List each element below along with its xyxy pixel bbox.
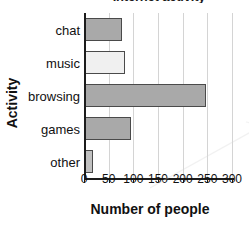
bar-browsing — [85, 84, 206, 107]
chart-title: Internet activity — [84, 0, 234, 3]
x-axis-tick-label: 300 — [222, 172, 242, 186]
x-axis-tick-label: 0 — [81, 172, 88, 186]
bar-music — [85, 51, 125, 74]
x-axis-tick-label: 250 — [197, 172, 217, 186]
y-axis-tick-label-music: music — [0, 55, 84, 70]
y-axis-tick-label-other: other — [0, 154, 84, 169]
y-axis-tick-label-browsing: browsing — [0, 88, 84, 103]
gridline — [232, 13, 233, 178]
y-axis-spine — [84, 13, 86, 178]
x-axis-tick-label: 150 — [148, 172, 168, 186]
y-axis-tick-labels: chatmusicbrowsinggamesother — [0, 13, 84, 178]
x-axis-label: Number of people — [60, 201, 240, 217]
bar-games — [85, 117, 131, 140]
bar-chat — [85, 18, 122, 41]
plot-area — [84, 13, 232, 178]
y-axis-tick-label-chat: chat — [0, 22, 84, 37]
gridline — [207, 13, 208, 178]
bar-chart: Internet activity Activity chatmusicbrow… — [0, 0, 249, 225]
bar-other — [85, 150, 93, 173]
x-axis-tick-label: 100 — [123, 172, 143, 186]
y-axis-tick-label-games: games — [0, 121, 84, 136]
x-axis-tick-label: 50 — [102, 172, 115, 186]
x-axis-tick-label: 200 — [173, 172, 193, 186]
